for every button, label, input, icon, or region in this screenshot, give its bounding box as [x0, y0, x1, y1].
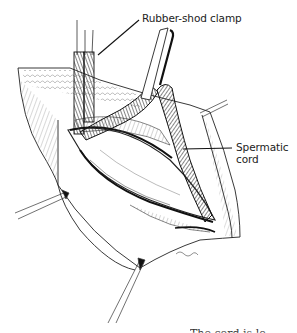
retractor-left — [15, 190, 69, 219]
retractor-right — [200, 100, 228, 117]
skin-texture-left — [20, 80, 57, 182]
clamp-leader-line — [98, 20, 139, 55]
caption-cropped: The cord is lo — [190, 327, 266, 333]
surgical-illustration: Rubber-shod clamp Spermatic cord The cor… — [0, 0, 297, 333]
label-spermatic-line1: Spermatic — [236, 141, 289, 153]
rubber-shod-clamp — [74, 20, 94, 134]
cord-leader-line — [183, 148, 232, 149]
label-rubber-shod-clamp: Rubber-shod clamp — [142, 12, 242, 24]
illustration-drawing — [0, 0, 297, 333]
label-spermatic-line2: cord — [236, 153, 289, 165]
tissue-detail — [176, 252, 198, 256]
label-spermatic-cord: Spermatic cord — [236, 141, 289, 165]
